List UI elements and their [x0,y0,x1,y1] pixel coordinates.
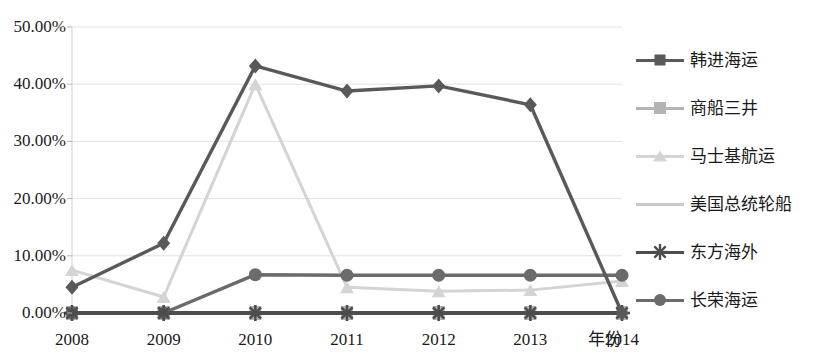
legend-marker-glyph [654,102,666,114]
legend-marker-none-icon [636,196,684,212]
y-axis-tick-label: 50.00% [0,18,66,35]
y-axis-tick-label: 40.00% [0,75,66,92]
legend-item-2[interactable]: 商船三井 [636,84,813,132]
x-axis-tick-label: 2013 [494,331,566,348]
data-point-marker [341,269,354,282]
legend-marker-asterisk-icon [636,244,684,260]
legend-marker-glyph [653,151,667,162]
legend-marker-circle-icon [636,292,684,308]
legend-item-1[interactable]: 韩进海运 [636,36,813,84]
chart-legend: 韩进海运商船三井马士基航运美国总统轮船东方海外长荣海运 [636,36,813,326]
data-point-marker [616,269,629,282]
series-line [72,84,622,297]
plot-svg [0,0,640,354]
legend-marker-diamond-icon [636,52,684,68]
data-point-marker [341,84,354,99]
legend-item-6[interactable]: 长荣海运 [636,276,813,324]
x-axis-tick-label: 2009 [128,331,200,348]
legend-item-4[interactable]: 美国总统轮船 [636,180,813,228]
data-point-marker [249,268,262,281]
legend-marker-glyph [651,243,669,261]
data-point-marker [432,269,445,282]
y-axis-tick-label: 10.00% [0,247,66,264]
x-axis-tick-label: 2012 [403,331,475,348]
legend-item-label: 商船三井 [690,100,758,117]
legend-item-5[interactable]: 东方海外 [636,228,813,276]
legend-item-label: 马士基航运 [690,148,775,165]
series-4 [64,305,630,321]
legend-item-label: 长荣海运 [690,292,758,309]
y-axis-tick-label: 0.00% [0,304,66,321]
data-point-marker [432,78,445,93]
legend-item-label: 韩进海运 [690,52,758,69]
legend-item-label: 东方海外 [690,244,758,261]
legend-line-swatch [636,203,684,206]
x-axis-tick-label: 2008 [36,331,108,348]
legend-marker-square-icon [636,100,684,116]
x-axis-title: 年份 [588,331,622,348]
x-axis-tick-label: 2011 [311,331,383,348]
y-axis-tick-label: 20.00% [0,190,66,207]
y-axis-tick-label: 30.00% [0,132,66,149]
legend-item-3[interactable]: 马士基航运 [636,132,813,180]
data-point-marker [524,97,537,112]
line-chart: 0.00%10.00%20.00%30.00%40.00%50.00% 2008… [0,0,813,354]
data-point-marker [66,280,79,295]
legend-item-label: 美国总统轮船 [690,196,792,213]
legend-marker-glyph [655,55,666,66]
legend-marker-triangle-icon [636,148,684,164]
x-axis-tick-label: 2010 [219,331,291,348]
plot-area: 0.00%10.00%20.00%30.00%40.00%50.00% 2008… [0,0,640,354]
legend-marker-glyph [654,294,666,306]
data-point-marker [524,269,537,282]
